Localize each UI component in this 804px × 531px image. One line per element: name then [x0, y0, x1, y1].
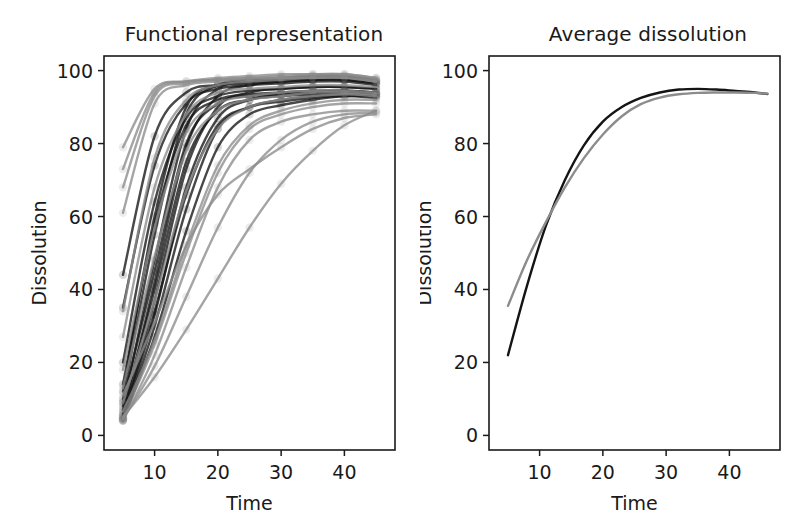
series-marker — [245, 165, 253, 173]
y-axis-label: Dissolution — [420, 200, 435, 305]
series-marker — [214, 143, 222, 151]
y-tick-label: 100 — [57, 60, 93, 82]
series-marker — [150, 318, 158, 326]
series-marker — [277, 143, 285, 151]
x-tick-label: 40 — [717, 461, 741, 483]
series-marker — [309, 147, 317, 155]
series-marker — [214, 125, 222, 133]
y-tick-label: 60 — [69, 206, 93, 228]
y-tick-label: 0 — [466, 424, 478, 446]
series-marker — [119, 209, 127, 217]
series-marker — [245, 136, 253, 144]
y-tick-label: 80 — [69, 133, 93, 155]
y-tick-label: 100 — [442, 60, 478, 82]
series-marker — [214, 107, 222, 115]
x-axis-label: Time — [225, 492, 273, 514]
series-marker — [182, 293, 190, 301]
series-marker — [150, 85, 158, 93]
series-group — [119, 70, 380, 425]
series-marker — [150, 154, 158, 162]
series-marker — [150, 223, 158, 231]
series-marker — [245, 110, 253, 118]
series-marker — [150, 183, 158, 191]
plot-area-right: 02040608010010203040TimeDissolution — [420, 0, 804, 531]
series-marker — [340, 74, 348, 82]
series-marker — [182, 147, 190, 155]
panel-functional-representation: Functional representation 02040608010010… — [0, 0, 420, 531]
series-marker — [214, 274, 222, 282]
series-marker — [119, 307, 127, 315]
series-marker — [372, 110, 380, 118]
series-marker — [309, 74, 317, 82]
series-marker — [119, 143, 127, 151]
y-tick-label: 20 — [454, 351, 478, 373]
x-tick-label: 20 — [206, 461, 230, 483]
x-tick-label: 40 — [332, 461, 356, 483]
series-marker — [119, 391, 127, 399]
series-marker — [309, 110, 317, 118]
x-tick-label: 20 — [591, 461, 615, 483]
y-tick-label: 60 — [454, 206, 478, 228]
series-marker — [372, 77, 380, 85]
y-axis-label: Dissolution — [28, 200, 50, 305]
panel-average-dissolution: Average dissolution 02040608010010203040… — [420, 0, 804, 531]
axes-frame — [489, 56, 780, 450]
series-marker — [150, 362, 158, 370]
series-marker — [277, 110, 285, 118]
series-marker — [309, 125, 317, 133]
series-marker — [309, 81, 317, 89]
series-marker — [214, 169, 222, 177]
series-line-average-light — [508, 92, 767, 305]
y-tick-label: 40 — [69, 278, 93, 300]
plot-area-left: 02040608010010203040TimeDissolution — [0, 0, 420, 531]
series-marker — [214, 223, 222, 231]
series-marker — [182, 249, 190, 257]
x-tick-label: 30 — [269, 461, 293, 483]
series-marker — [119, 398, 127, 406]
figure-root: Functional representation 02040608010010… — [0, 0, 804, 531]
series-marker — [182, 96, 190, 104]
series-marker — [182, 110, 190, 118]
series-marker — [277, 83, 285, 91]
series-marker — [119, 414, 127, 422]
series-marker — [182, 325, 190, 333]
series-marker — [150, 252, 158, 260]
series-marker — [340, 121, 348, 129]
y-tick-label: 0 — [81, 424, 93, 446]
series-marker — [150, 132, 158, 140]
series-marker — [182, 128, 190, 136]
series-marker — [245, 125, 253, 133]
series-marker — [214, 190, 222, 198]
series-marker — [150, 340, 158, 348]
series-marker — [309, 117, 317, 125]
series-marker — [214, 76, 222, 84]
series-marker — [119, 271, 127, 279]
series-group — [508, 89, 767, 355]
y-tick-label: 40 — [454, 278, 478, 300]
series-marker — [277, 136, 285, 144]
x-tick-label: 30 — [654, 461, 678, 483]
series-marker — [309, 103, 317, 111]
series-marker — [277, 179, 285, 187]
series-marker — [119, 183, 127, 191]
y-tick-label: 80 — [454, 133, 478, 155]
x-tick-label: 10 — [143, 461, 167, 483]
x-tick-label: 10 — [528, 461, 552, 483]
series-marker — [277, 117, 285, 125]
series-marker — [245, 223, 253, 231]
series-marker — [245, 92, 253, 100]
series-marker — [340, 81, 348, 89]
series-marker — [245, 74, 253, 82]
series-marker — [119, 366, 127, 374]
series-marker — [277, 74, 285, 82]
series-marker — [119, 165, 127, 173]
series-marker — [245, 85, 253, 93]
y-tick-label: 20 — [69, 351, 93, 373]
series-marker — [340, 114, 348, 122]
series-marker — [182, 187, 190, 195]
series-marker — [150, 373, 158, 381]
series-marker — [372, 99, 380, 107]
x-axis-label: Time — [610, 492, 658, 514]
series-marker — [245, 103, 253, 111]
series-marker — [214, 99, 222, 107]
